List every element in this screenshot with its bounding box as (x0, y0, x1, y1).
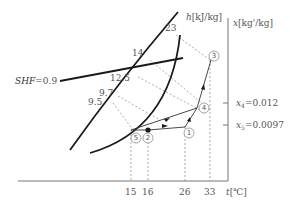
shf-label: SHF=0.9 (15, 76, 57, 86)
svg-text:5: 5 (134, 134, 138, 142)
point-2-dot (145, 127, 150, 132)
x-axis-label: t[℃] (226, 187, 247, 197)
y-axis-label: x[kg'/kg] (233, 18, 273, 28)
svg-text:4: 4 (202, 104, 207, 112)
svg-text:1: 1 (187, 129, 191, 137)
point-3-label: 3 (209, 51, 219, 61)
svg-text:3: 3 (212, 52, 216, 60)
enthalpy-line-9.7 (118, 96, 160, 120)
y-tick-label-x4: x4=0.012 (236, 98, 278, 109)
point-5-label: 5 (131, 133, 141, 143)
point-2-label: 2 (143, 133, 153, 143)
h-label-12.5: 12.5 (110, 73, 130, 83)
x-tick-16: 16 (142, 187, 154, 197)
arrow-3-4 (201, 84, 205, 90)
psychrometric-diagram: 5 2 1 4 3 23 14 12.5 9.7 9.5 SHF=0.9 h[k… (0, 0, 290, 208)
h-label-9.5: 9.5 (88, 97, 103, 107)
h-label-14: 14 (132, 48, 144, 58)
x-tick-26: 26 (179, 187, 191, 197)
point-1-label: 1 (184, 128, 194, 138)
x-tick-33: 33 (204, 187, 216, 197)
h-axis-label: h[kJ/kg] (186, 12, 222, 22)
process-1-4 (185, 108, 197, 127)
h-label-23: 23 (165, 23, 177, 33)
y-tick-label-x5: x5=0.0097 (236, 120, 284, 131)
svg-text:2: 2 (146, 134, 150, 142)
arrow-2-1 (162, 124, 168, 128)
enthalpy-line-23 (176, 35, 210, 60)
x-tick-15: 15 (125, 187, 137, 197)
enthalpy-line-9.5 (113, 103, 133, 130)
point-4-label: 4 (199, 103, 209, 113)
